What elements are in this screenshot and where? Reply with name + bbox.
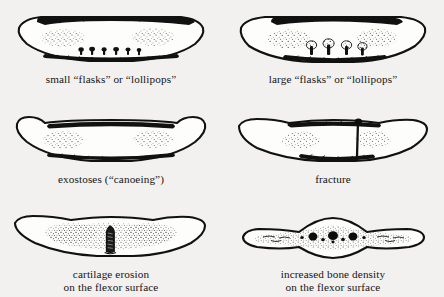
panel-caption: exostoses (“canoeing”) [58, 173, 164, 186]
erosion-lesion [105, 226, 116, 254]
bone-cross-section-small-flasks-drawing [5, 4, 217, 70]
panel-exostoses: exostoses (“canoeing”) [0, 100, 222, 200]
panel-caption: cartilage erosion on the flexor surface [64, 268, 159, 295]
bone-cross-section-increased-density-drawing [227, 206, 439, 264]
panel-caption: increased bone density on the flexor sur… [281, 268, 386, 295]
panel-increased-bone-density: increased bone density on the flexor sur… [222, 200, 444, 297]
panel-cartilage-erosion: cartilage erosion on the flexor surface [0, 200, 222, 297]
panel-large-flasks: large “flasks” or “lollipops” [222, 0, 444, 100]
panel-small-flasks: small “flasks” or “lollipops” [0, 0, 222, 100]
panel-caption: small “flasks” or “lollipops” [46, 73, 177, 86]
bone-cross-section-cartilage-erosion-drawing [5, 206, 217, 264]
figure-panel-grid: small “flasks” or “lollipops” [0, 0, 444, 297]
panel-caption: large “flasks” or “lollipops” [269, 73, 397, 86]
bone-cross-section-large-flasks-drawing [227, 4, 439, 70]
panel-caption: fracture [315, 173, 351, 186]
bone-cross-section-fracture-drawing [227, 104, 439, 170]
panel-fracture: fracture [222, 100, 444, 200]
bone-cross-section-exostoses-drawing [5, 104, 217, 170]
